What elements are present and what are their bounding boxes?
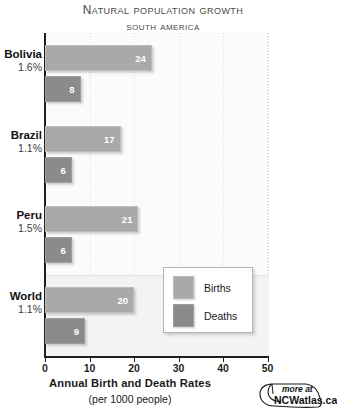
logo-more-at-text: more at xyxy=(282,384,313,394)
legend-item-deaths: Deaths xyxy=(173,304,237,327)
category-name: Peru xyxy=(0,209,42,222)
x-tick-label-20: 20 xyxy=(119,362,149,374)
category-label-peru: Peru1.5% xyxy=(0,209,42,235)
legend-label-deaths: Deaths xyxy=(204,310,237,322)
bar-value-label: 8 xyxy=(69,83,74,94)
page-title: Natural Population Growth xyxy=(0,1,326,17)
bar-peru-births: 21 xyxy=(45,206,138,232)
bar-value-label: 24 xyxy=(135,52,146,63)
x-axis-caption-secondary: (per 1000 people) xyxy=(0,393,260,405)
category-name: Brazil xyxy=(0,129,42,142)
bar-brazil-births: 17 xyxy=(45,126,121,152)
category-name: Bolivia xyxy=(0,48,42,61)
bar-value-label: 17 xyxy=(104,133,115,144)
category-growth-rate: 1.1% xyxy=(0,303,42,316)
chart-title-block: Natural Population Growth South America xyxy=(0,1,326,33)
x-tick-label-10: 10 xyxy=(75,362,105,374)
category-label-bolivia: Bolivia1.6% xyxy=(0,48,42,74)
bar-world-deaths: 9 xyxy=(45,318,85,344)
legend-swatch-deaths-icon xyxy=(173,304,194,327)
category-label-world: World1.1% xyxy=(0,290,42,316)
x-tick-label-40: 40 xyxy=(208,362,238,374)
bar-value-label: 20 xyxy=(117,295,128,306)
x-axis-caption-primary: Annual Birth and Death Rates xyxy=(0,377,260,389)
category-growth-rate: 1.6% xyxy=(0,61,42,74)
category-name: World xyxy=(0,290,42,303)
bar-bolivia-births: 24 xyxy=(45,45,152,71)
legend-swatch-births-icon xyxy=(173,276,194,299)
bar-world-births: 20 xyxy=(45,287,134,313)
legend-label-births: Births xyxy=(204,282,231,294)
logo-watermark[interactable]: more at NCWatlas.ca xyxy=(258,380,324,413)
x-tick-label-50: 50 xyxy=(253,362,283,374)
x-tick-label-30: 30 xyxy=(164,362,194,374)
bar-peru-deaths: 6 xyxy=(45,237,72,263)
bar-value-label: 6 xyxy=(60,164,65,175)
bar-value-label: 6 xyxy=(60,245,65,256)
legend-item-births: Births xyxy=(173,276,231,299)
page-subtitle: South America xyxy=(0,18,326,33)
category-label-column: Bolivia1.6%Brazil1.1%Peru1.5%World1.1% xyxy=(0,0,42,415)
x-axis-line xyxy=(44,356,269,358)
x-tick-label-0: 0 xyxy=(30,362,60,374)
bar-value-label: 9 xyxy=(74,326,79,337)
bar-bolivia-deaths: 8 xyxy=(45,76,81,102)
bar-value-label: 21 xyxy=(122,214,133,225)
category-label-brazil: Brazil1.1% xyxy=(0,129,42,155)
bar-brazil-deaths: 6 xyxy=(45,157,72,183)
chart-legend: Births Deaths xyxy=(163,267,253,333)
logo-site-text: NCWatlas.ca xyxy=(274,394,337,406)
category-growth-rate: 1.1% xyxy=(0,142,42,155)
category-growth-rate: 1.5% xyxy=(0,222,42,235)
